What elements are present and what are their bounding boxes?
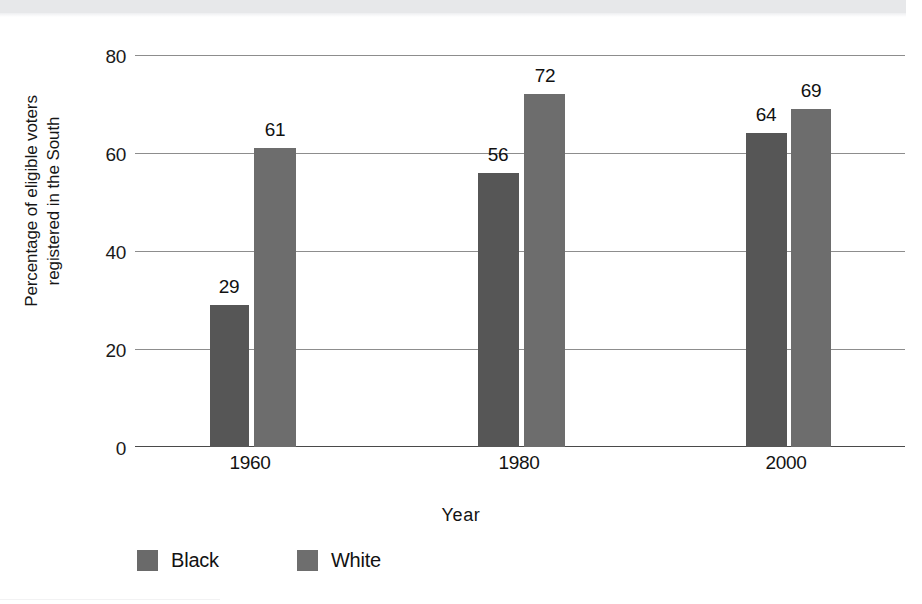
- bar-value-2000-black: 64: [736, 105, 796, 124]
- x-tick-label-1980: 1980: [459, 452, 579, 474]
- gridline-80: [135, 55, 905, 56]
- y-tick-label-0: 0: [86, 439, 126, 458]
- plot-area: 29 61 56 72 64 69: [135, 55, 905, 447]
- legend-swatch-white-icon: [297, 550, 318, 571]
- y-axis-ticks: 80 60 40 20 0: [88, 55, 126, 447]
- y-axis-title: Percentage of eligible voters registered…: [20, 31, 66, 371]
- bar-1980-black[interactable]: [478, 173, 519, 447]
- y-axis-title-line-1: Percentage of eligible voters: [21, 95, 43, 307]
- bar-value-2000-white: 69: [781, 81, 841, 100]
- bar-1960-white[interactable]: [254, 148, 296, 447]
- legend-item-black[interactable]: Black: [137, 549, 219, 572]
- chart-page: Percentage of eligible voters registered…: [0, 0, 922, 604]
- gridline-20: [135, 349, 905, 350]
- x-axis-title: Year: [0, 505, 922, 526]
- y-tick-label-80: 80: [86, 47, 126, 66]
- bar-value-1980-black: 56: [468, 145, 528, 164]
- x-tick-label-1960: 1960: [190, 452, 310, 474]
- page-top-band: [0, 0, 906, 14]
- y-axis-title-line-2: registered in the South: [43, 117, 65, 286]
- bar-2000-white[interactable]: [791, 109, 831, 447]
- legend-label-black: Black: [171, 549, 219, 572]
- y-tick-label-60: 60: [86, 145, 126, 164]
- legend-item-white[interactable]: White: [297, 549, 381, 572]
- page-bottom-hairline: [0, 599, 220, 600]
- bar-value-1960-white: 61: [245, 120, 305, 139]
- gridline-40: [135, 251, 905, 252]
- page-top-band-fade: [0, 13, 906, 17]
- bar-value-1980-white: 72: [515, 66, 575, 85]
- chart-legend: Black White: [137, 549, 459, 572]
- bar-1960-black[interactable]: [210, 305, 249, 447]
- legend-swatch-black-icon: [137, 550, 158, 571]
- bar-1980-white[interactable]: [524, 94, 565, 447]
- bar-value-1960-black: 29: [199, 277, 259, 296]
- y-tick-label-40: 40: [86, 243, 126, 262]
- x-axis-line: [135, 446, 905, 447]
- y-tick-label-20: 20: [86, 341, 126, 360]
- bar-2000-black[interactable]: [746, 133, 787, 447]
- legend-label-white: White: [331, 549, 381, 572]
- x-tick-label-2000: 2000: [726, 452, 846, 474]
